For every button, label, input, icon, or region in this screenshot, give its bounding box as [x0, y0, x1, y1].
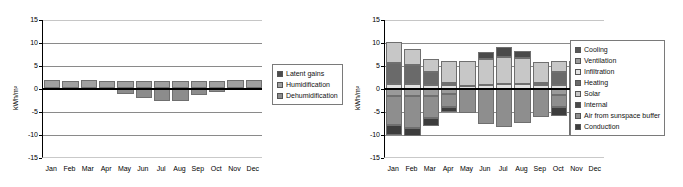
- x-tick-label: Jun: [134, 165, 152, 172]
- x-tick-label: Dec: [586, 165, 604, 172]
- x-tick-label: Oct: [207, 165, 225, 172]
- x-tick-label: Feb: [402, 165, 420, 172]
- bar-segment: [441, 107, 457, 112]
- legend-item: Humidification: [277, 79, 338, 90]
- legend-item: Conduction: [575, 121, 660, 132]
- bar-segment: [62, 81, 78, 88]
- legend-swatch-icon: [277, 82, 283, 88]
- x-tick-label: Jan: [384, 165, 402, 172]
- left-legend: Latent gainsHumidificationDehumidificati…: [272, 64, 343, 105]
- y-tick-label: 5: [358, 62, 380, 69]
- bar-segment: [478, 52, 494, 59]
- y-tick-mark: [381, 66, 384, 67]
- x-tick-label: May: [115, 165, 133, 172]
- y-tick-label: -5: [16, 108, 38, 115]
- bar-segment: [459, 89, 475, 113]
- bar-segment: [533, 62, 549, 84]
- legend-label: Ventilation: [584, 57, 616, 64]
- figure-sheet: kWh/m² 151050-5-10-15JanFebMarAprMayJunJ…: [0, 0, 683, 187]
- bar-segment: [441, 61, 457, 82]
- y-tick-label: -15: [16, 154, 38, 161]
- bar-segment: [386, 125, 402, 135]
- bar-segment: [423, 89, 439, 96]
- bar-segment: [423, 118, 439, 125]
- legend-item: Solar: [575, 88, 660, 99]
- legend-label: Dehumidification: [286, 92, 338, 99]
- legend-label: Solar: [584, 90, 600, 97]
- y-tick-mark: [39, 66, 42, 67]
- legend-label: Humidification: [286, 81, 330, 88]
- y-tick-mark: [381, 20, 384, 21]
- bar-segment: [514, 89, 530, 123]
- y-tick-label: 5: [16, 62, 38, 69]
- legend-item: Ventilation: [575, 55, 660, 66]
- legend-swatch-icon: [575, 69, 581, 75]
- x-tick-label: Apr: [97, 165, 115, 172]
- bar-segment: [246, 80, 262, 88]
- x-tick-label: Oct: [549, 165, 567, 172]
- y-tick-mark: [39, 112, 42, 113]
- y-tick-mark: [39, 135, 42, 136]
- bar-segment: [423, 96, 439, 119]
- legend-label: Air from sunspace buffer: [584, 112, 660, 119]
- bar-segment: [99, 81, 115, 88]
- x-tick-label: May: [457, 165, 475, 172]
- x-tick-label: Nov: [225, 165, 243, 172]
- legend-label: Latent gains: [286, 70, 324, 77]
- right-legend: CoolingVentilationInfiltrationHeatingSol…: [570, 40, 665, 136]
- bar-segment: [551, 107, 567, 116]
- y-tick-label: 15: [16, 16, 38, 23]
- legend-swatch-icon: [575, 80, 581, 86]
- bar-segment: [551, 61, 567, 72]
- legend-item: Dehumidification: [277, 90, 338, 101]
- bar-segment: [209, 81, 225, 88]
- latent-chart: kWh/m² 151050-5-10-15JanFebMarAprMayJunJ…: [0, 0, 342, 187]
- bar-segment: [496, 47, 512, 57]
- legend-swatch-icon: [575, 91, 581, 97]
- legend-swatch-icon: [575, 113, 581, 119]
- bar-segment: [386, 96, 402, 125]
- bar-segment: [136, 89, 152, 98]
- y-tick-mark: [381, 112, 384, 113]
- legend-swatch-icon: [575, 58, 581, 64]
- bar-segment: [496, 57, 512, 85]
- legend-item: Heating: [575, 77, 660, 88]
- y-tick-mark: [39, 89, 42, 90]
- legend-label: Cooling: [584, 46, 608, 53]
- energy-balance-chart: kWh/m² 151050-5-10-15JanFebMarAprMayJunJ…: [342, 0, 683, 187]
- bar-segment: [386, 42, 402, 63]
- x-tick-label: Jul: [152, 165, 170, 172]
- x-tick-label: Jul: [494, 165, 512, 172]
- bar-segment: [172, 89, 188, 101]
- bar-segment: [478, 89, 494, 124]
- bar-segment: [423, 59, 439, 72]
- legend-swatch-icon: [575, 47, 581, 53]
- legend-label: Heating: [584, 79, 608, 86]
- y-tick-mark: [381, 89, 384, 90]
- bar-segment: [441, 83, 457, 86]
- legend-swatch-icon: [277, 71, 283, 77]
- legend-label: Internal: [584, 101, 607, 108]
- y-tick-label: 10: [16, 39, 38, 46]
- y-tick-mark: [381, 158, 384, 159]
- bar-segment: [441, 94, 457, 108]
- legend-item: Internal: [575, 99, 660, 110]
- bar-segment: [423, 72, 439, 85]
- y-tick-mark: [381, 43, 384, 44]
- bar-segment: [404, 96, 420, 128]
- bar-segment: [551, 72, 567, 86]
- bar-segment: [154, 89, 170, 101]
- legend-item: Latent gains: [277, 68, 338, 79]
- x-tick-label: Jan: [42, 165, 60, 172]
- bar-segment: [44, 80, 60, 88]
- y-tick-label: 15: [358, 16, 380, 23]
- bar-segment: [533, 89, 549, 117]
- plot-frame: [42, 20, 262, 158]
- x-tick-label: Mar: [79, 165, 97, 172]
- bar-segment: [404, 89, 420, 96]
- x-tick-label: Jun: [476, 165, 494, 172]
- zero-axis-line: [43, 88, 262, 90]
- legend-label: Conduction: [584, 123, 619, 130]
- x-tick-label: Mar: [421, 165, 439, 172]
- y-tick-label: -15: [358, 154, 380, 161]
